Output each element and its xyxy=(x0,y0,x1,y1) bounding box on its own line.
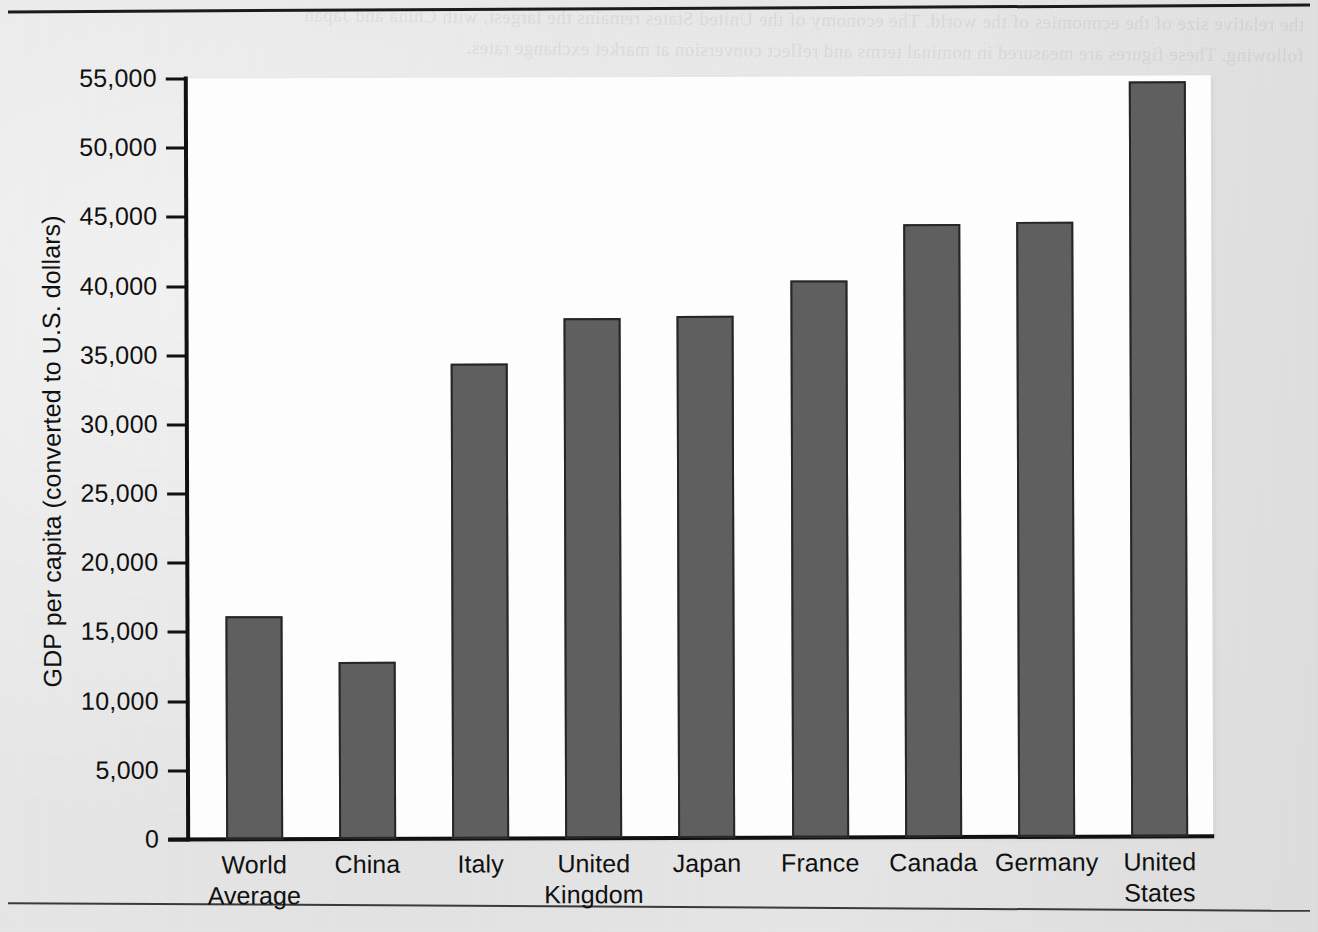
y-axis-tick-mark xyxy=(166,285,185,288)
bar xyxy=(790,280,849,837)
bar-series xyxy=(0,0,1317,2)
y-axis-tick-mark xyxy=(168,631,187,634)
category-label-line: United xyxy=(1080,846,1240,878)
category-label-line: Average xyxy=(174,880,334,912)
y-axis-tick: 30,000 xyxy=(0,424,186,425)
y-axis-tick: 0 xyxy=(1,839,187,840)
bar xyxy=(903,224,962,837)
y-axis-tick: 55,000 xyxy=(0,78,185,79)
x-axis-category-labels: WorldAverageChinaItalyUnitedKingdomJapan… xyxy=(0,0,1317,2)
category-label-line: Kingdom xyxy=(514,879,674,911)
bar xyxy=(564,318,623,838)
y-axis-tick-mark xyxy=(168,700,187,703)
y-axis-tick: 40,000 xyxy=(0,286,185,287)
y-axis-tick-mark xyxy=(166,77,185,80)
y-axis-tick-mark xyxy=(168,838,187,841)
y-axis-title: GDP per capita (converted to U.S. dollar… xyxy=(36,131,67,771)
y-axis-tick-mark xyxy=(166,147,185,150)
x-axis-category-label: UnitedStates xyxy=(1080,846,1240,909)
y-axis-tick: 15,000 xyxy=(1,632,187,633)
y-axis-tick-mark xyxy=(167,354,186,357)
category-label-line: States xyxy=(1080,877,1240,909)
y-axis-tick: 5,000 xyxy=(1,770,187,771)
y-axis-tick-label: 0 xyxy=(27,827,159,852)
bar xyxy=(451,364,509,839)
y-axis-tick-mark xyxy=(167,562,186,565)
bar xyxy=(1016,222,1075,837)
y-axis-tick: 50,000 xyxy=(0,148,185,149)
y-axis-tick: 25,000 xyxy=(0,494,186,495)
textbook-page: the relative size of the economies of th… xyxy=(0,0,1318,932)
bar xyxy=(677,315,736,837)
y-axis-tick: 10,000 xyxy=(1,701,187,702)
y-axis-tick-mark xyxy=(167,493,186,496)
bar xyxy=(1129,82,1188,837)
bar xyxy=(338,662,396,839)
y-axis-tick-mark xyxy=(166,216,185,219)
y-axis-tick: 20,000 xyxy=(0,563,186,564)
y-axis-tick-mark xyxy=(167,423,186,426)
bar xyxy=(225,616,283,839)
y-axis-tick-mark xyxy=(168,769,187,772)
bar-chart-figure: 05,00010,00015,00020,00025,00030,00035,0… xyxy=(0,0,1318,932)
y-axis-ticks: 05,00010,00015,00020,00025,00030,00035,0… xyxy=(0,0,1317,2)
y-axis-tick: 35,000 xyxy=(0,355,186,356)
y-axis-tick-label: 55,000 xyxy=(25,66,157,91)
y-axis-tick: 45,000 xyxy=(0,217,185,218)
